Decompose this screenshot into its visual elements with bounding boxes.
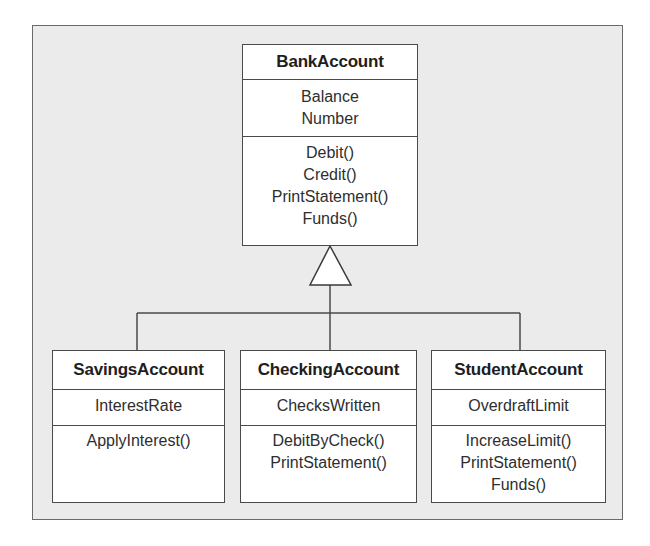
method: Funds() (243, 208, 417, 230)
class-checkingaccount: CheckingAccount ChecksWritten DebitByChe… (240, 350, 417, 503)
class-bankaccount: BankAccount Balance Number Debit() Credi… (242, 44, 418, 246)
class-name: StudentAccount (432, 351, 605, 390)
class-studentaccount: StudentAccount OverdraftLimit IncreaseLi… (431, 350, 606, 503)
attribute: Number (243, 108, 417, 130)
class-name: CheckingAccount (241, 351, 416, 390)
attributes-compartment: ChecksWritten (241, 390, 416, 426)
attribute: ChecksWritten (241, 395, 416, 417)
method: Debit() (243, 142, 417, 164)
methods-compartment: IncreaseLimit() PrintStatement() Funds() (432, 426, 605, 496)
generalization-arrow-icon (310, 246, 351, 285)
attribute: Balance (243, 86, 417, 108)
class-name: SavingsAccount (53, 351, 224, 390)
method: Funds() (432, 474, 605, 496)
attribute: InterestRate (53, 395, 224, 417)
methods-compartment: DebitByCheck() PrintStatement() (241, 426, 416, 474)
method: PrintStatement() (432, 452, 605, 474)
method: DebitByCheck() (241, 430, 416, 452)
class-name: BankAccount (243, 45, 417, 80)
method: PrintStatement() (243, 186, 417, 208)
attributes-compartment: InterestRate (53, 390, 224, 426)
method: PrintStatement() (241, 452, 416, 474)
class-savingsaccount: SavingsAccount InterestRate ApplyInteres… (52, 350, 225, 503)
methods-compartment: Debit() Credit() PrintStatement() Funds(… (243, 137, 417, 230)
method: ApplyInterest() (53, 430, 224, 452)
attributes-compartment: Balance Number (243, 80, 417, 137)
method: IncreaseLimit() (432, 430, 605, 452)
attribute: OverdraftLimit (432, 395, 605, 417)
method: Credit() (243, 164, 417, 186)
methods-compartment: ApplyInterest() (53, 426, 224, 452)
attributes-compartment: OverdraftLimit (432, 390, 605, 426)
